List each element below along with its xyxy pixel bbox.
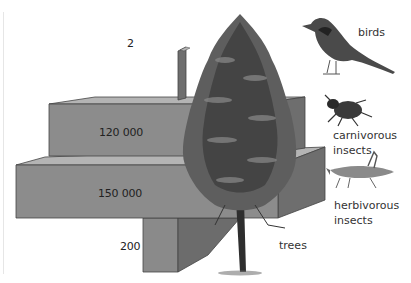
beetle-icon — [325, 95, 372, 126]
block-trees — [143, 218, 240, 272]
label-herbivorous-line1: herbivorous — [334, 199, 399, 213]
label-carnivorous-line1: carnivorous — [333, 129, 397, 143]
block-birds — [178, 47, 190, 100]
label-birds: birds — [358, 26, 385, 40]
label-trees: trees — [279, 239, 307, 253]
label-carnivorous-line2: insects — [333, 144, 372, 158]
label-herbivorous-line2: insects — [334, 214, 373, 228]
count-carnivorous-insects: 120 000 — [99, 126, 143, 140]
count-trees: 200 — [120, 240, 140, 254]
count-herbivorous-insects: 150 000 — [98, 187, 142, 201]
count-birds: 2 — [127, 37, 134, 51]
